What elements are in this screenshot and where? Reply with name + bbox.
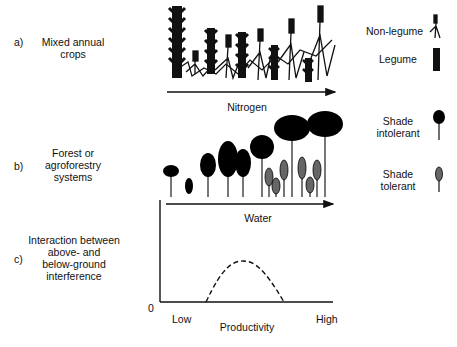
- legume-legend-icon: [433, 48, 440, 71]
- shade-tolerant-tree: [306, 177, 314, 193]
- water-label: Water: [233, 212, 283, 224]
- legend-line: intolerant: [370, 127, 426, 139]
- legend-line: tolerant: [370, 180, 426, 192]
- shade-intolerant-tree: [274, 115, 310, 141]
- legend-shade-tolerant-label: Shade tolerant: [370, 168, 426, 192]
- shade-intolerant-tree: [307, 111, 343, 137]
- legume-plant-icon: [169, 6, 185, 78]
- non-legume-legend-icon: [430, 15, 440, 38]
- nitrogen-label: Nitrogen: [217, 101, 277, 113]
- y-origin-label: 0: [148, 302, 154, 314]
- legend-legume-label: Legume: [379, 53, 417, 65]
- x-low-label: Low: [172, 313, 191, 325]
- legend-line: Shade: [370, 115, 426, 127]
- shade-intolerant-tree: [163, 165, 179, 177]
- shade-intolerant-tree: [218, 141, 238, 177]
- shade-tolerant-legend-icon: [436, 167, 443, 192]
- shade-intolerant-legend-icon: [433, 110, 445, 140]
- legend-shade-intolerant-label: Shade intolerant: [370, 115, 426, 139]
- shade-intolerant-tree: [185, 178, 193, 194]
- shade-tolerant-tree: [313, 160, 321, 180]
- non-legume-plant-icon: [248, 29, 271, 80]
- interaction-curve: [206, 261, 284, 302]
- shade-tolerant-tree: [265, 168, 273, 186]
- productivity-label: Productivity: [212, 321, 282, 333]
- legend-non-legume-label: Non-legume: [366, 25, 423, 37]
- shade-intolerant-tree: [235, 149, 251, 177]
- shade-intolerant-tree: [250, 135, 274, 159]
- mixed-crops-illustration: [169, 6, 335, 82]
- non-legume-plant-icon: [311, 6, 335, 80]
- shade-tolerant-tree: [272, 178, 280, 194]
- legume-plant-icon: [303, 58, 313, 82]
- forest-trees-illustration: [163, 111, 343, 197]
- x-high-label: High: [316, 313, 338, 325]
- legume-plant-icon: [236, 32, 248, 78]
- legume-plant-icon: [269, 45, 279, 80]
- shade-intolerant-tree: [200, 153, 216, 177]
- shade-tolerant-tree: [280, 160, 288, 180]
- legend-line: Shade: [370, 168, 426, 180]
- shade-tolerant-tree: [298, 157, 306, 179]
